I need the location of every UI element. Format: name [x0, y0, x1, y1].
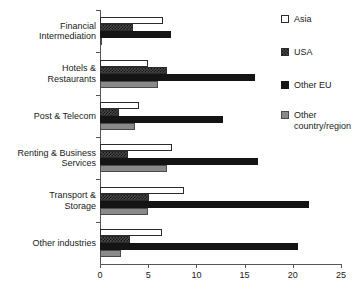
- bar-usa: [100, 194, 149, 201]
- bar-asia: [100, 60, 148, 67]
- bar-otherreg: [100, 165, 167, 172]
- bar-otherreg: [100, 250, 121, 257]
- bar-usa: [100, 151, 128, 158]
- bar-asia: [100, 229, 162, 236]
- category-label: Post & Telecom: [4, 111, 96, 122]
- bar-othereu: [100, 201, 309, 208]
- x-axis-tick: [245, 264, 246, 268]
- bar-otherreg: [100, 38, 102, 45]
- legend-swatch-othereu: [281, 81, 289, 89]
- x-axis-tick-label: 15: [230, 270, 260, 281]
- legend-label: USA: [294, 47, 313, 58]
- bar-otherreg: [100, 208, 148, 215]
- x-axis-tick-label: 20: [278, 270, 308, 281]
- bar-otherreg: [100, 81, 158, 88]
- legend-swatch-asia: [281, 15, 289, 23]
- legend-swatch-usa: [281, 48, 289, 56]
- bar-usa: [100, 236, 130, 243]
- category-label: Financial Intermediation: [4, 21, 96, 42]
- category-label: Renting & Business Services: [4, 148, 96, 169]
- legend-label: Other EU: [294, 80, 332, 91]
- x-axis-tick: [148, 264, 149, 268]
- x-axis-tick: [100, 264, 101, 268]
- legend-item[interactable]: Other EU: [281, 80, 332, 91]
- legend-label: Other country/region: [294, 110, 351, 131]
- legend-swatch-otherreg: [281, 111, 289, 119]
- legend-item[interactable]: Asia: [281, 14, 312, 25]
- x-axis-tick-label: 5: [133, 270, 163, 281]
- x-axis-tick: [341, 264, 342, 268]
- category-axis-labels: Financial IntermediationHotels & Restaur…: [0, 0, 96, 291]
- bar-othereu: [100, 158, 258, 165]
- bar-othereu: [100, 31, 171, 38]
- bar-asia: [100, 144, 172, 151]
- bar-othereu: [100, 243, 298, 250]
- legend-item[interactable]: Other country/region: [281, 110, 351, 131]
- x-axis-tick-label: 10: [181, 270, 211, 281]
- bar-othereu: [100, 74, 255, 81]
- bar-usa: [100, 24, 133, 31]
- x-axis-tick-label: 25: [326, 270, 356, 281]
- bar-asia: [100, 102, 139, 109]
- category-label: Hotels & Restaurants: [4, 63, 96, 84]
- category-label: Transport & Storage: [4, 190, 96, 211]
- legend-item[interactable]: USA: [281, 47, 313, 58]
- bar-usa: [100, 109, 119, 116]
- x-axis-line: [100, 264, 341, 265]
- bar-usa: [100, 67, 167, 74]
- x-axis-tick: [293, 264, 294, 268]
- category-label: Other industries: [4, 238, 96, 249]
- bar-asia: [100, 17, 163, 24]
- legend-label: Asia: [294, 14, 312, 25]
- x-axis-tick-label: 0: [85, 270, 115, 281]
- bar-chart: Financial IntermediationHotels & Restaur…: [0, 0, 363, 291]
- bar-otherreg: [100, 123, 135, 130]
- bar-othereu: [100, 116, 223, 123]
- x-axis-tick: [196, 264, 197, 268]
- bar-asia: [100, 187, 184, 194]
